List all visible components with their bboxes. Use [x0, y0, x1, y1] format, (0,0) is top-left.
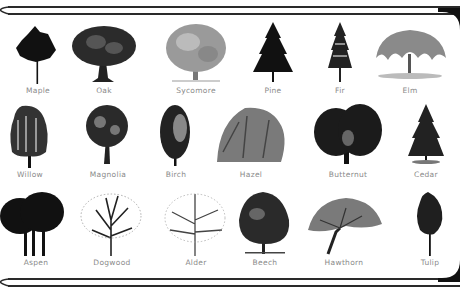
maple-tree-icon	[0, 18, 76, 88]
tree-label: Birch	[138, 170, 214, 179]
tree-label: Maple	[0, 86, 76, 95]
magnolia-tree-icon	[70, 102, 146, 172]
top-border	[0, 4, 460, 16]
tree-label: Oak	[66, 86, 142, 95]
tree-grid: Maple Oak Sycomore Pine	[0, 18, 460, 276]
elm-tree-icon	[372, 18, 448, 88]
tree-label: Dogwood	[74, 258, 150, 267]
tree-label: Hazel	[213, 170, 289, 179]
alder-tree-icon	[158, 190, 234, 260]
tree-card-sycomore: Sycomore	[158, 18, 234, 100]
bottom-border	[0, 276, 460, 288]
hawthorn-tree-icon	[306, 190, 382, 260]
cedar-tree-icon	[388, 102, 460, 172]
tree-label: Hawthorn	[306, 258, 382, 267]
tulip-tree-icon	[392, 190, 460, 260]
tree-card-pine: Pine	[235, 18, 311, 100]
tree-label: Aspen	[0, 258, 74, 267]
dogwood-tree-icon	[74, 190, 150, 260]
tree-card-butternut: Butternut	[310, 102, 386, 184]
tree-card-willow: Willow	[0, 102, 68, 184]
tree-label: Elm	[372, 86, 448, 95]
tree-label: Magnolia	[70, 170, 146, 179]
tree-card-aspen: Aspen	[0, 190, 74, 272]
tree-label: Sycomore	[158, 86, 234, 95]
birch-tree-icon	[138, 102, 214, 172]
aspen-tree-icon	[0, 190, 74, 260]
oak-tree-icon	[66, 18, 142, 88]
tree-label: Fir	[302, 86, 378, 95]
sycomore-tree-icon	[158, 18, 234, 88]
tree-label: Willow	[0, 170, 68, 179]
tree-card-elm: Elm	[372, 18, 448, 100]
tree-card-dogwood: Dogwood	[74, 190, 150, 272]
tree-card-alder: Alder	[158, 190, 234, 272]
beech-tree-icon	[227, 190, 303, 260]
pine-tree-icon	[235, 18, 311, 88]
tree-card-hawthorn: Hawthorn	[306, 190, 382, 272]
tree-label: Cedar	[388, 170, 460, 179]
tree-label: Beech	[227, 258, 303, 267]
tree-card-oak: Oak	[66, 18, 142, 100]
tree-label: Tulip	[392, 258, 460, 267]
tree-card-fir: Fir	[302, 18, 378, 100]
tree-card-maple: Maple	[0, 18, 76, 100]
butternut-tree-icon	[310, 102, 386, 172]
tree-card-beech: Beech	[227, 190, 303, 272]
tree-label: Pine	[235, 86, 311, 95]
tree-label: Butternut	[310, 170, 386, 179]
tree-label: Alder	[158, 258, 234, 267]
tree-card-birch: Birch	[138, 102, 214, 184]
tree-card-tulip: Tulip	[392, 190, 460, 272]
tree-card-cedar: Cedar	[388, 102, 460, 184]
hazel-tree-icon	[213, 102, 289, 172]
fir-tree-icon	[302, 18, 378, 88]
tree-card-hazel: Hazel	[213, 102, 289, 184]
willow-tree-icon	[0, 102, 68, 172]
tree-card-magnolia: Magnolia	[70, 102, 146, 184]
